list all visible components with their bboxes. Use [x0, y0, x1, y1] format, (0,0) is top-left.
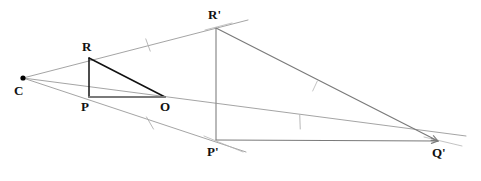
- point-label-pp: P': [207, 145, 219, 158]
- ray-c-to-rprime: [23, 20, 248, 78]
- segment-r-to-o: [89, 58, 165, 97]
- tick-on-rprime-qprime-edge: [313, 81, 318, 91]
- point-label-p: P: [81, 100, 89, 113]
- point-label-o: O: [160, 100, 170, 113]
- geometry-figure: CRPOR'P'Q': [0, 0, 481, 181]
- tick-on-c-pprime-ray: [147, 117, 154, 129]
- geometry-canvas: [0, 0, 481, 181]
- ray-c-to-pprime: [23, 78, 246, 152]
- point-label-c: C: [14, 84, 23, 97]
- segment-rprime-to-qprime: [216, 28, 438, 141]
- arrowheads-layer: [431, 136, 438, 144]
- point-label-qp: Q': [432, 146, 446, 159]
- point-label-rp: R': [208, 8, 221, 21]
- point-marker-c: [20, 75, 25, 80]
- segment-pprime-to-qprime: [216, 140, 438, 141]
- points-layer: [20, 75, 25, 80]
- tick-marks-layer: [146, 39, 318, 129]
- point-label-r: R: [82, 40, 91, 53]
